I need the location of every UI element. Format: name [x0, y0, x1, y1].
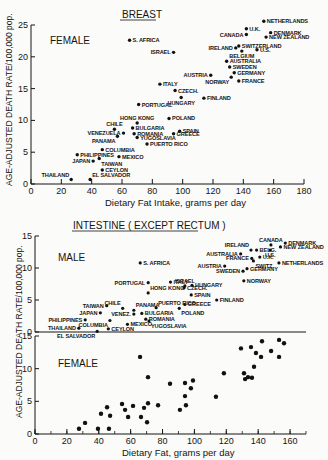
point-marker [147, 291, 150, 294]
data-point [183, 394, 187, 398]
x-tick-label: 100 [175, 186, 190, 196]
x-tick-label: 140 [236, 186, 251, 196]
point-marker [142, 406, 146, 410]
x-tick-label: 40 [87, 186, 97, 196]
data-point [260, 339, 264, 343]
point-marker [84, 318, 87, 321]
point-marker [242, 371, 246, 375]
data-point [269, 349, 273, 353]
point-marker [239, 346, 243, 350]
point-label: HONG KONG [120, 115, 154, 121]
point-label: POLAND [172, 115, 195, 121]
point-marker [191, 378, 195, 382]
point-marker [237, 79, 240, 82]
point-label: PANAMA [92, 138, 116, 144]
data-point: COLUMBIA [79, 319, 112, 329]
data-point [277, 338, 281, 342]
point-marker [260, 339, 264, 343]
point-marker [105, 405, 109, 409]
data-point [142, 406, 146, 410]
point-label: NEW ZEALAND [283, 244, 323, 250]
point-marker [167, 117, 170, 120]
data-point: JAPAN [79, 310, 102, 316]
point-marker [168, 381, 172, 385]
data-point [242, 371, 246, 375]
data-point [145, 420, 149, 424]
point-marker [277, 338, 281, 342]
point-label: NEW ZEALAND [269, 34, 309, 40]
point-marker [146, 401, 150, 405]
point-marker [222, 371, 226, 375]
data-point [259, 355, 263, 359]
point-marker [88, 178, 91, 181]
point-label: CHILE [104, 300, 121, 306]
data-point: POLAND [178, 307, 205, 317]
x-tick-label: 160 [266, 186, 281, 196]
point-label: U.S. [260, 47, 271, 53]
point-marker [245, 33, 248, 36]
point-marker [223, 264, 226, 267]
y-tick-label: 0 [27, 429, 32, 439]
point-marker [279, 245, 282, 248]
point-label: EL SALVADOR [57, 333, 95, 339]
data-point: FRANCE [237, 78, 265, 84]
intestine-x-axis-label: Dietary Fat, grams per day [122, 447, 235, 458]
point-label: CEYLON [111, 326, 134, 332]
data-point: CZECH. [182, 285, 207, 291]
point-marker [183, 394, 187, 398]
data-point [146, 375, 150, 379]
y-tick-label: 5 [23, 147, 28, 157]
point-label: POLAND [181, 310, 204, 316]
data-point: IRELAND [209, 45, 238, 51]
x-tick-label: 60 [126, 436, 136, 446]
data-point [184, 403, 188, 407]
data-point: NETHERLANDS [262, 18, 308, 24]
data-point: THAILAND [41, 172, 72, 182]
data-point: U.K. [245, 26, 261, 32]
data-point: PORTUGAL [115, 280, 150, 286]
point-marker [249, 248, 252, 251]
point-marker [131, 126, 134, 129]
x-tick-label: 80 [158, 436, 168, 446]
point-marker [255, 48, 258, 51]
y-tick-label: 25 [18, 20, 28, 30]
point-label: SWEDEN [216, 268, 240, 274]
point-label: CANADA [259, 237, 283, 243]
data-point [191, 378, 195, 382]
point-label: JAPAN [72, 158, 90, 164]
data-point [83, 421, 87, 425]
data-point: NORWAY [242, 278, 271, 284]
point-marker [158, 82, 161, 85]
point-marker [121, 307, 124, 310]
point-marker [77, 427, 81, 431]
point-label: EL SALVADOR [92, 172, 130, 178]
point-marker [202, 96, 205, 99]
point-marker [107, 327, 110, 330]
point-marker [246, 375, 250, 379]
data-point: PHILIPPINES [76, 152, 115, 158]
data-point [282, 341, 286, 345]
data-point [96, 427, 100, 431]
point-label: CZECH. [178, 88, 199, 94]
data-point [178, 408, 182, 412]
data-point [214, 395, 218, 399]
point-marker [107, 427, 111, 431]
point-label: GREECE [177, 131, 200, 137]
point-marker [126, 415, 130, 419]
point-label: CANADA [220, 32, 244, 38]
point-marker [250, 376, 254, 380]
point-marker [190, 293, 193, 296]
point-label: NETHERLANDS [282, 260, 324, 266]
point-marker [132, 312, 135, 315]
point-marker [277, 261, 280, 264]
point-label: FRANCE [226, 255, 249, 261]
data-point: JAPAN [72, 158, 95, 164]
data-point: CHILE [104, 300, 124, 310]
data-point: S. AFRICA [139, 260, 171, 266]
data-point: CEYLON [107, 326, 134, 332]
point-marker [76, 153, 79, 156]
point-label: IRELAND [209, 45, 233, 51]
data-point [222, 371, 226, 375]
point-label: PHILIPPINES [80, 152, 114, 158]
data-point [99, 412, 103, 416]
